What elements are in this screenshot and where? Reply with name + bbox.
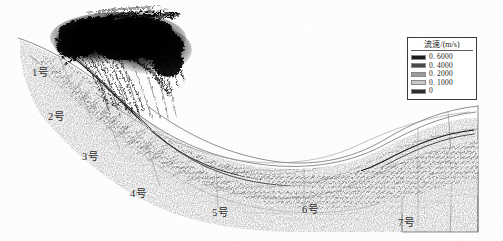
section-label-3: 3号 [82,152,98,163]
legend-row: 0. 6000 [411,53,473,61]
legend-row: 0. 2000 [411,70,473,78]
velocity-legend: 流速/(m/s) 0. 6000 0. 4000 0. 2000 0. 1000… [407,37,477,100]
legend-row: 0 [411,87,473,95]
section-label-2: 2号 [48,112,64,123]
section-label-6: 6号 [302,205,318,216]
legend-row: 0. 1000 [411,79,473,87]
legend-value-0: 0 [429,87,433,95]
legend-value-0-6000: 0. 6000 [429,53,453,61]
legend-swatch-0-6000 [411,55,426,60]
legend-title: 流速/(m/s) [411,40,473,51]
legend-swatch-0-1000 [411,80,426,85]
section-label-4: 4号 [130,189,146,200]
flow-velocity-figure: 1号 2号 3号 4号 5号 6号 7号 流速/(m/s) 0. 6000 0.… [0,0,503,241]
section-label-7: 7号 [398,218,414,229]
legend-swatch-0-4000 [411,63,426,68]
section-label-1: 1号 [32,68,48,79]
legend-swatch-0-2000 [411,72,426,77]
legend-value-0-1000: 0. 1000 [429,79,453,87]
section-label-5: 5号 [212,208,228,219]
legend-swatch-0 [411,89,426,94]
legend-value-0-4000: 0. 4000 [429,62,453,70]
legend-value-0-2000: 0. 2000 [429,70,453,78]
